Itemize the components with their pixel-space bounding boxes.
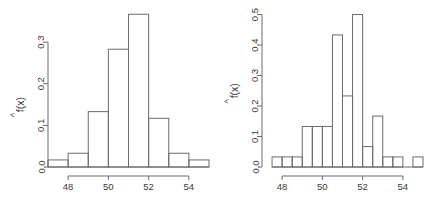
- x-axis-left: 48505254: [63, 176, 194, 192]
- x-tick-label: 48: [63, 181, 74, 192]
- y-axis-label-right: f(x)^: [224, 83, 241, 103]
- x-tick-label: 52: [143, 181, 154, 192]
- histogram-bar: [383, 157, 393, 167]
- y-axis-right: 0.00.10.20.30.40.5: [250, 8, 263, 174]
- y-tick-label: 0.5: [250, 8, 261, 21]
- histogram-bar: [343, 96, 353, 167]
- histogram-bar: [353, 15, 363, 167]
- histogram-bar: [189, 160, 209, 167]
- histogram-bar: [108, 49, 128, 167]
- y-tick-label: 0.0: [250, 160, 261, 173]
- y-tick-label: 0.2: [250, 99, 261, 112]
- y-tick-label: 0.3: [36, 36, 47, 49]
- x-tick-label: 48: [277, 181, 288, 192]
- y-tick-label: 0.1: [250, 130, 261, 143]
- histogram-bar: [149, 118, 169, 167]
- y-tick-label: 0.0: [36, 160, 47, 173]
- histogram-bar: [363, 147, 373, 167]
- histogram-plot-right: 0.00.10.20.30.40.5 48505254 f(x)^: [220, 0, 439, 211]
- y-tick-label: 0.2: [36, 77, 47, 90]
- histogram-bar: [272, 157, 282, 167]
- x-tick-label: 52: [357, 181, 368, 192]
- histogram-bar: [413, 157, 423, 167]
- histogram-bars-right: [272, 15, 423, 167]
- histogram-figure: 0.00.10.20.3 48505254 f(x)^ 0.00.10.20.3…: [0, 0, 439, 211]
- histogram-bar: [48, 160, 68, 167]
- histogram-bar: [282, 157, 292, 167]
- histogram-plot-left: 0.00.10.20.3 48505254 f(x)^: [0, 0, 219, 211]
- y-axis-label-left: f(x)^: [10, 97, 27, 117]
- histogram-bar: [292, 157, 302, 167]
- histogram-bar: [68, 153, 88, 167]
- x-tick-label: 50: [317, 181, 328, 192]
- y-tick-label: 0.3: [250, 69, 261, 82]
- x-tick-label: 50: [103, 181, 114, 192]
- histogram-bar: [312, 126, 322, 167]
- histogram-bar: [322, 126, 332, 167]
- histogram-bars-left: [48, 14, 209, 167]
- histogram-bar: [373, 116, 383, 167]
- histogram-bar: [88, 112, 108, 167]
- y-axis-left: 0.00.10.20.3: [36, 36, 49, 174]
- histogram-panel-left: 0.00.10.20.3 48505254 f(x)^: [0, 0, 219, 211]
- histogram-bar: [129, 14, 149, 167]
- x-tick-label: 54: [184, 181, 195, 192]
- histogram-bar: [393, 157, 403, 167]
- histogram-panel-right: 0.00.10.20.30.40.5 48505254 f(x)^: [220, 0, 439, 211]
- x-axis-right: 48505254: [277, 176, 408, 192]
- histogram-bar: [332, 35, 342, 167]
- y-axis-title: f(x): [228, 83, 240, 98]
- histogram-bar: [169, 153, 189, 167]
- y-tick-label: 0.4: [250, 38, 261, 51]
- y-tick-label: 0.1: [36, 119, 47, 132]
- y-axis-title: f(x): [14, 97, 26, 112]
- histogram-bar: [302, 126, 312, 167]
- x-tick-label: 54: [398, 181, 409, 192]
